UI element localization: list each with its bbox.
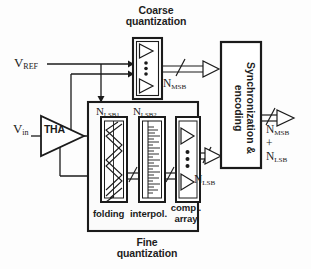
tha-label: THA: [44, 124, 65, 135]
coarse-dot-1: [144, 61, 148, 65]
folding-block: [101, 117, 127, 202]
coarse-quantization-caption: Coarse quantization: [115, 5, 197, 27]
folding-inner-box: [105, 121, 124, 198]
comparray-dot-2: [186, 157, 190, 161]
vin-label: Vin: [13, 122, 29, 137]
synchronization-encoding-label: Synchronization & encoding: [243, 52, 257, 164]
folding-block-label: folding: [93, 209, 124, 219]
vref-label: VREF: [14, 56, 38, 71]
coarse-quantization-block: [133, 38, 162, 99]
coarse-dot-3: [144, 72, 148, 76]
nlsb2-resolution-label: NLSB2: [133, 106, 157, 118]
nlsb1-resolution-label: NLSB1: [96, 106, 120, 118]
nmsb-bus-label: NMSB: [163, 77, 186, 91]
output-bus-label: NMSB + NLSB: [266, 123, 310, 164]
interpolation-block-label: interpol.: [130, 209, 167, 219]
comparray-dot-1: [186, 150, 190, 154]
comparator-array-label: comp . array: [168, 203, 204, 224]
nlsb-bus-label: NLSB: [194, 173, 215, 187]
comparray-dot-3: [186, 164, 190, 168]
coarse-dot-2: [144, 67, 148, 71]
comparator-array-block: [176, 117, 200, 202]
interpolation-block: [139, 117, 165, 202]
fine-quantization-caption: Fine quantization: [106, 237, 188, 259]
